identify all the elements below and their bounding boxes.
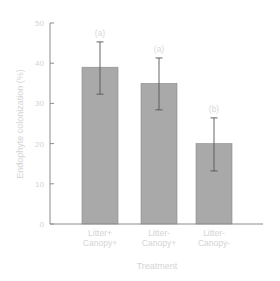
bar-group: (b): [196, 104, 232, 224]
x-tick-label: Litter-: [203, 228, 225, 238]
x-tick-label: Canopy-: [198, 238, 230, 248]
significance-label: (a): [154, 44, 165, 54]
x-tick-label: Litter+: [88, 228, 112, 238]
bars: (a)(a)(b): [82, 28, 232, 224]
y-axis: 01020304050: [35, 19, 54, 229]
y-tick-label: 40: [35, 59, 44, 68]
x-tick-label: Canopy+: [83, 238, 117, 248]
y-tick-label: 50: [35, 19, 44, 28]
y-tick-label: 0: [40, 220, 45, 229]
y-tick-label: 30: [35, 99, 44, 108]
y-tick-label: 10: [35, 180, 44, 189]
x-axis-title: Treatment: [137, 261, 178, 271]
y-axis-title: Endophyte colonization (%): [15, 69, 25, 179]
y-tick-label: 20: [35, 140, 44, 149]
x-tick-label: Canopy+: [142, 238, 176, 248]
significance-label: (b): [209, 104, 220, 114]
x-tick-label: Litter-: [148, 228, 170, 238]
bar-chart: 01020304050 (a)(a)(b) Litter+Canopy+Litt…: [0, 0, 280, 281]
bar-group: (a): [141, 44, 177, 224]
significance-label: (a): [95, 28, 106, 38]
bar-group: (a): [82, 28, 118, 224]
x-axis: Litter+Canopy+Litter-Canopy+Litter-Canop…: [50, 224, 263, 248]
